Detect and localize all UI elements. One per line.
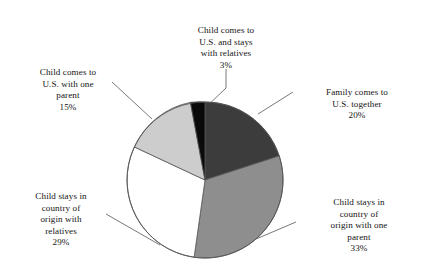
- callout-label-comes-one-parent: Child comes to U.S. with one parent 15%: [8, 56, 128, 124]
- callout-text: Family comes to U.S. together: [326, 87, 388, 108]
- callout-label-origin-one-parent: Child stays in country of origin with on…: [300, 186, 418, 266]
- callout-text: Child comes to U.S. and stays with relat…: [198, 25, 254, 58]
- pie-slices: [127, 102, 283, 258]
- callout-percent: 20%: [296, 110, 418, 121]
- pie-chart-figure: Child comes to U.S. and stays with relat…: [0, 0, 421, 275]
- callout-text: Child comes to U.S. with one parent: [40, 67, 96, 100]
- callout-percent: 15%: [8, 102, 128, 113]
- callout-text: Child stays in country of origin with re…: [35, 191, 86, 235]
- callout-percent: 29%: [2, 237, 120, 248]
- callout-label-origin-relatives: Child stays in country of origin with re…: [2, 180, 120, 260]
- leader-line-right: [258, 92, 293, 114]
- callout-percent: 3%: [148, 60, 304, 71]
- callout-label-family-together: Family comes to U.S. together 20%: [296, 76, 418, 133]
- callout-label-comes-stays-relatives: Child comes to U.S. and stays with relat…: [148, 14, 304, 82]
- callout-text: Child stays in country of origin with on…: [331, 197, 388, 241]
- callout-percent: 33%: [300, 243, 418, 254]
